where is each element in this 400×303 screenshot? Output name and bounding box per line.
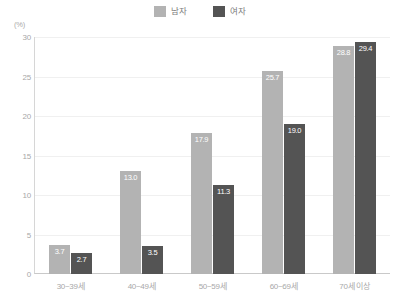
x-axis-tick-label: 40~49세 [106,280,177,298]
bar-female[interactable]: 11.3 [213,185,234,274]
bar-chart: 남자 여자 (%) 302520151050 3.72.713.03.517.9… [0,0,400,303]
bar-value-label: 3.5 [142,248,163,257]
bar-male[interactable]: 17.9 [191,133,212,274]
y-axis: 302520151050 [0,37,31,274]
y-axis-tick-label: 25 [3,72,31,81]
y-axis-tick-label: 30 [3,33,31,42]
x-axis-tick-label: 60~69세 [248,280,319,298]
x-axis-tick-label: 50~59세 [177,280,248,298]
bar-male[interactable]: 3.7 [49,245,70,274]
y-axis-unit-label: (%) [14,20,25,29]
chart-legend: 남자 여자 [0,3,400,19]
bar-female[interactable]: 3.5 [142,246,163,274]
bar-value-label: 29.4 [355,44,376,53]
bar-value-label: 11.3 [213,187,234,196]
y-axis-tick-label: 10 [3,191,31,200]
x-axis-tick-label: 70세 이상 [319,280,390,298]
legend-item-female[interactable]: 여자 [213,6,246,17]
bar-value-label: 19.0 [284,126,305,135]
bar-group: 25.719.0 [248,37,319,274]
bar-female[interactable]: 2.7 [71,253,92,274]
bar-female[interactable]: 29.4 [355,42,376,274]
bar-value-label: 17.9 [191,135,212,144]
bar-male[interactable]: 13.0 [120,171,141,274]
bar-female[interactable]: 19.0 [284,124,305,274]
bars-container: 3.72.713.03.517.911.325.719.028.829.4 [35,37,390,274]
legend-swatch-male [154,6,166,17]
bar-value-label: 13.0 [120,173,141,182]
bar-value-label: 25.7 [262,73,283,82]
legend-swatch-female [213,6,225,17]
bar-group: 13.03.5 [106,37,177,274]
x-axis: 30~39세40~49세50~59세60~69세70세 이상 [35,280,390,298]
bar-male[interactable]: 28.8 [333,46,354,274]
y-axis-tick-label: 0 [3,270,31,279]
y-axis-tick-label: 5 [3,230,31,239]
x-axis-tick-label: 30~39세 [35,280,106,298]
y-axis-tick-label: 15 [3,151,31,160]
bar-male[interactable]: 25.7 [262,71,283,274]
bar-group: 3.72.7 [35,37,106,274]
bar-group: 28.829.4 [319,37,390,274]
legend-item-male[interactable]: 남자 [154,6,187,17]
legend-label-female: 여자 [230,6,246,17]
bar-value-label: 28.8 [333,48,354,57]
bar-value-label: 3.7 [49,247,70,256]
legend-label-male: 남자 [171,6,187,17]
y-axis-tick-label: 20 [3,112,31,121]
bar-group: 17.911.3 [177,37,248,274]
bar-value-label: 2.7 [71,255,92,264]
